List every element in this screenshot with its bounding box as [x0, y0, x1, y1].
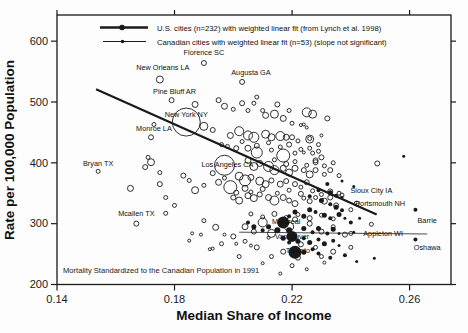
us-city-point — [311, 189, 315, 193]
us-city-point — [290, 264, 294, 268]
canadian-city-point — [343, 217, 346, 220]
us-city-point — [227, 132, 233, 138]
canadian-city-point — [322, 241, 327, 246]
us-city-point — [202, 183, 206, 187]
us-city-point — [149, 135, 154, 140]
us-city-point — [280, 195, 286, 201]
us-city-point — [211, 247, 214, 250]
us-city-point — [269, 255, 273, 259]
city-label: Augusta GA — [231, 68, 270, 77]
us-city-point — [222, 176, 226, 180]
us-city-point — [287, 109, 291, 113]
us-city-point — [263, 112, 269, 118]
us-city-point — [287, 188, 291, 192]
us-city-point — [307, 221, 312, 226]
us-city-point — [255, 95, 259, 99]
us-city-point — [290, 121, 294, 125]
us-city-point — [250, 195, 257, 202]
us-city-point — [302, 151, 305, 154]
us-city-point — [292, 165, 298, 171]
legend-group: U.S. cities (n=232) with weighted linear… — [100, 24, 387, 47]
canadian-city-point — [343, 253, 347, 257]
canadian-city-point — [322, 213, 327, 218]
canadian-city-point — [251, 224, 256, 229]
us-city-point — [199, 233, 202, 236]
legend-item: U.S. cities (n=232) with weighted linear… — [100, 24, 382, 33]
city-label: Vancouver — [275, 232, 310, 241]
us-city-point — [296, 139, 300, 143]
canadian-city-point — [413, 208, 417, 212]
city-label: Montreal — [272, 217, 301, 226]
us-city-point — [224, 181, 237, 194]
y-tick-label: 400 — [30, 157, 48, 169]
us-city-point — [270, 110, 278, 118]
us-city-point — [267, 236, 270, 239]
legend-label: Canadian cities with weighted linear fit… — [157, 38, 387, 47]
x-tick-label: 0.14 — [46, 293, 67, 305]
us-city-point — [305, 126, 308, 129]
canadian-city-point — [266, 224, 271, 229]
canadian-city-point — [311, 230, 315, 234]
city-label: Los Angeles CA — [201, 160, 253, 169]
us-city-point — [158, 171, 162, 175]
us-city-point — [292, 201, 298, 207]
us-city-point — [188, 239, 191, 242]
canadian-city-point — [328, 202, 332, 206]
city-label: Barrie — [417, 216, 436, 225]
us-city-point — [302, 123, 305, 126]
us-city-point — [252, 101, 256, 105]
us-city-point — [283, 134, 289, 140]
us-city-point — [319, 155, 324, 160]
canadian-city-point — [314, 210, 318, 214]
us-city-point — [305, 268, 308, 271]
us-city-point — [260, 186, 265, 191]
us-city-point — [96, 169, 100, 173]
us-city-point — [261, 109, 265, 113]
us-city-point — [240, 175, 251, 186]
us-city-point — [221, 103, 227, 109]
canadian-city-point — [292, 210, 297, 215]
us-city-point — [306, 171, 313, 178]
us-city-point — [275, 102, 280, 107]
scatter-plot: 0.140.180.220.26200300400500600 Florence… — [0, 0, 468, 333]
data-points-group — [96, 61, 417, 275]
canadian-city-point — [334, 205, 339, 210]
us-city-point — [279, 272, 282, 275]
us-city-point — [272, 211, 277, 216]
legend-item: Canadian cities with weighted linear fit… — [103, 38, 387, 47]
us-city-point — [248, 174, 254, 180]
city-label: Mcallen TX — [118, 209, 154, 218]
city-label: Florence SC — [184, 48, 225, 57]
us-city-point — [231, 107, 235, 111]
plot-frame-group: 0.140.180.220.26200300400500600 — [30, 10, 456, 305]
footnote: Mortality Standardized to the Canadian P… — [63, 266, 259, 275]
us-city-point — [298, 191, 303, 196]
canadian-city-point — [373, 257, 376, 260]
figure: 0.140.180.220.26200300400500600 Florence… — [0, 0, 468, 333]
city-label: Bryan TX — [83, 159, 113, 168]
us-city-point — [270, 196, 279, 205]
us-city-point — [164, 196, 168, 200]
city-label: Toronto — [286, 246, 310, 255]
us-city-point — [249, 244, 252, 247]
us-city-point — [164, 211, 168, 215]
canadian-city-point — [340, 180, 343, 183]
us-city-point — [240, 101, 245, 106]
us-city-point — [173, 203, 177, 207]
us-city-point — [299, 185, 303, 189]
us-city-point — [278, 145, 282, 149]
us-city-point — [243, 239, 247, 243]
x-tick-label: 0.26 — [399, 293, 420, 305]
us-city-point — [223, 233, 226, 236]
us-fit-line — [96, 89, 377, 214]
canadian-city-point — [325, 182, 329, 186]
us-city-point — [337, 174, 341, 178]
us-city-point — [200, 122, 208, 130]
us-city-point — [284, 162, 289, 167]
us-city-point — [309, 110, 317, 118]
us-city-point — [323, 261, 326, 264]
canadian-city-point — [311, 247, 315, 251]
canadian-city-point — [402, 155, 405, 158]
us-city-point — [268, 134, 275, 141]
canadian-city-point — [338, 244, 341, 247]
